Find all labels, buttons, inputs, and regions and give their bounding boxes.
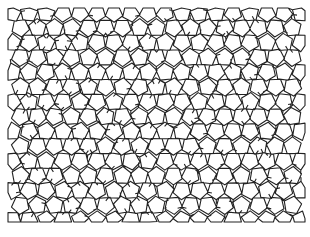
pentagon-tiling-figure (0, 0, 310, 237)
tiling-svg (0, 0, 310, 237)
tiling-lines (8, 8, 305, 222)
